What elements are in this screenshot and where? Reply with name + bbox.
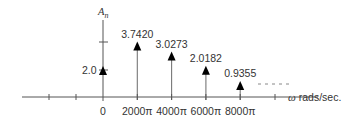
y-tick-label-2: 2.0	[82, 64, 97, 76]
stem-arrow-icon	[202, 66, 210, 75]
y-axis-label: An	[97, 6, 108, 20]
stem-arrow-icon	[168, 52, 176, 61]
value-label: 2.0182	[190, 52, 222, 64]
x-tick-label: 0	[100, 105, 106, 117]
stems: 03.74202000π3.02734000π2.01826000π0.9355…	[99, 28, 256, 117]
x-tick-label: 4000π	[156, 105, 187, 117]
stem-arrow-icon	[133, 42, 141, 51]
stem-arrow-icon	[236, 81, 244, 90]
value-label: 3.0273	[156, 38, 188, 50]
value-label: 3.7420	[121, 28, 153, 40]
value-label: 0.9355	[224, 67, 256, 79]
amplitude-spectrum-chart: An 2.0 ωrads/sec. 03.74202000π3.02734000…	[0, 0, 356, 122]
x-tick-label: 8000π	[225, 105, 256, 117]
x-tick-label: 6000π	[191, 105, 222, 117]
x-tick-label: 2000π	[122, 105, 153, 117]
